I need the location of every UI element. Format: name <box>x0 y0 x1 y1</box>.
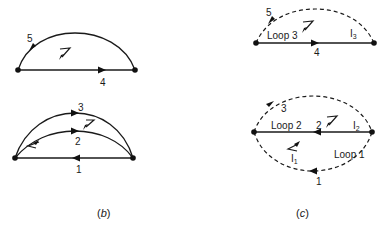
edge-4-label: 4 <box>314 47 320 58</box>
loop-direction-icon <box>288 141 300 151</box>
node <box>253 40 259 46</box>
node <box>130 155 136 161</box>
current-i2-label: I2 <box>353 120 360 132</box>
node <box>15 67 21 73</box>
edge-5-label: 5 <box>27 33 33 44</box>
current-i1-label: I1 <box>291 153 298 165</box>
node <box>132 67 138 73</box>
edge-2-label: 2 <box>316 120 322 131</box>
edge-5-arrow-icon <box>29 43 36 51</box>
current-i3-label: I3 <box>350 28 357 40</box>
edge-4-arrow-icon <box>311 40 319 47</box>
edge-5-arc <box>18 33 135 70</box>
edge-5-label: 5 <box>266 7 272 18</box>
loop-direction-icon <box>302 21 313 33</box>
loop-direction-icon <box>59 48 70 60</box>
panel-b-caption: (b) <box>97 207 110 219</box>
node <box>369 129 375 135</box>
loop-3-label: Loop 3 <box>267 30 298 41</box>
panel-c-caption: (c) <box>296 207 309 219</box>
loop-2-label: Loop 2 <box>271 120 302 131</box>
panel-c-top-graph: 5 4 Loop 3 I3 <box>253 7 377 58</box>
panel-b-top-graph: 5 4 <box>15 33 138 88</box>
edge-2-label: 2 <box>75 136 81 147</box>
edge-1-arrow-icon <box>72 155 80 162</box>
edge-1-label: 1 <box>316 176 322 187</box>
edge-1-label: 1 <box>76 164 82 175</box>
loop-direction-icon <box>83 120 94 130</box>
edge-1-arrow-icon <box>309 168 317 175</box>
edge-4-arrow-icon <box>98 67 106 74</box>
edge-3-arc <box>15 113 133 158</box>
circuit-graph-figure: 5 4 3 2 1 (b) <box>0 0 390 237</box>
node <box>12 155 18 161</box>
loop-direction-icon <box>326 116 337 128</box>
node <box>251 129 257 135</box>
panel-c-bottom-graph: 3 2 1 Loop 2 Loop 1 I2 I1 <box>251 96 375 187</box>
edge-2-arrow-icon <box>71 128 79 135</box>
loop-1-label: Loop 1 <box>334 149 365 160</box>
edge-3-label: 3 <box>78 102 84 113</box>
edge-4-label: 4 <box>100 77 106 88</box>
edge-3-label: 3 <box>281 103 287 114</box>
node <box>371 40 377 46</box>
panel-b-bottom-graph: 3 2 1 <box>12 102 136 175</box>
edge-3-arrow-icon <box>266 101 274 107</box>
